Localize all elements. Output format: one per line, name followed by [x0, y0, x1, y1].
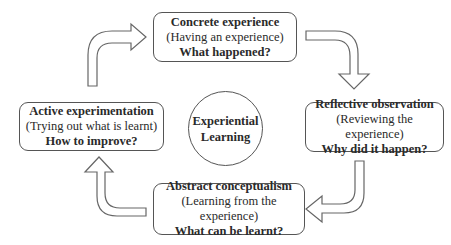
- stage-title: Active experimentation: [29, 104, 154, 119]
- arrow-top-to-right: [306, 31, 369, 89]
- center-label-line1: Experiential: [193, 113, 259, 129]
- arrow-bottom-to-left: [85, 157, 146, 216]
- stage-title: Abstract conceptualism: [166, 179, 292, 194]
- center-label-line2: Learning: [201, 129, 250, 145]
- stage-concrete-experience: Concrete experience (Having an experienc…: [153, 12, 297, 62]
- stage-question: How to improve?: [45, 134, 137, 149]
- stage-question: Why did it happen?: [322, 142, 428, 157]
- stage-reflective-observation: Reflective observation (Reviewing the ex…: [305, 102, 444, 152]
- stage-question: What can be learnt?: [175, 224, 284, 239]
- stage-subtitle: (Having an experience): [166, 30, 283, 45]
- stage-subtitle: (Reviewing the experience): [306, 112, 443, 142]
- arrow-left-to-top: [88, 24, 146, 86]
- center-experiential-learning: Experiential Learning: [188, 91, 263, 166]
- stage-subtitle: (Trying out what is learnt): [26, 119, 157, 134]
- stage-subtitle: (Learning from the experience): [154, 194, 304, 224]
- stage-title: Concrete experience: [171, 15, 279, 30]
- stage-title: Reflective observation: [315, 97, 433, 112]
- stage-question: What happened?: [179, 45, 270, 60]
- stage-abstract-conceptualism: Abstract conceptualism (Learning from th…: [153, 183, 305, 235]
- arrow-right-to-bottom: [306, 161, 364, 222]
- stage-active-experimentation: Active experimentation (Trying out what …: [19, 102, 164, 151]
